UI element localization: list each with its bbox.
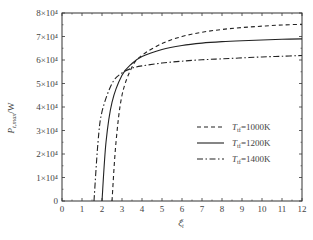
y-tick-label: 7×10⁴ bbox=[36, 32, 58, 42]
x-tick-label: 0 bbox=[60, 204, 65, 214]
x-tick-label: 12 bbox=[298, 204, 307, 214]
y-tick-label: 6×10⁴ bbox=[36, 55, 58, 65]
series-line-1 bbox=[102, 39, 302, 201]
series-line-0 bbox=[112, 24, 302, 201]
x-tick-label: 2 bbox=[100, 204, 105, 214]
y-tick-label: 0 bbox=[54, 196, 59, 206]
x-tick-label: 5 bbox=[160, 204, 165, 214]
y-tick-label: 5×10⁴ bbox=[36, 79, 58, 89]
legend-label: Ttf=1200K bbox=[232, 138, 271, 149]
axis-titles: Pt,max/Wξtx bbox=[6, 102, 184, 229]
series-line-2 bbox=[94, 56, 302, 201]
y-tick-label: 4×10⁴ bbox=[36, 102, 58, 112]
y-tick-label: 2×10⁴ bbox=[36, 149, 58, 159]
legend: Ttf=1000KTtf=1200KTtf=1400K bbox=[197, 122, 271, 165]
legend-label: Ttf=1400K bbox=[232, 154, 271, 165]
x-tick-label: 8 bbox=[220, 204, 225, 214]
y-tick-label: 1×10⁴ bbox=[36, 173, 58, 183]
axes: 012345678910111201×10⁴2×10⁴3×10⁴4×10⁴5×1… bbox=[36, 8, 306, 214]
x-axis-title: ξtx bbox=[178, 217, 184, 229]
line-chart: 012345678910111201×10⁴2×10⁴3×10⁴4×10⁴5×1… bbox=[0, 0, 313, 240]
x-tick-label: 4 bbox=[140, 204, 145, 214]
x-tick-label: 7 bbox=[200, 204, 205, 214]
x-tick-label: 6 bbox=[180, 204, 185, 214]
legend-label: Ttf=1000K bbox=[232, 122, 271, 133]
x-tick-label: 11 bbox=[278, 204, 287, 214]
x-tick-label: 3 bbox=[120, 204, 125, 214]
x-tick-label: 1 bbox=[80, 204, 85, 214]
x-tick-label: 9 bbox=[240, 204, 245, 214]
y-axis-title: Pt,max/W bbox=[6, 102, 17, 134]
x-tick-label: 10 bbox=[258, 204, 268, 214]
plot-area bbox=[94, 24, 302, 201]
y-tick-label: 8×10⁴ bbox=[36, 8, 58, 18]
y-tick-label: 3×10⁴ bbox=[36, 126, 58, 136]
plot-frame bbox=[62, 13, 302, 201]
